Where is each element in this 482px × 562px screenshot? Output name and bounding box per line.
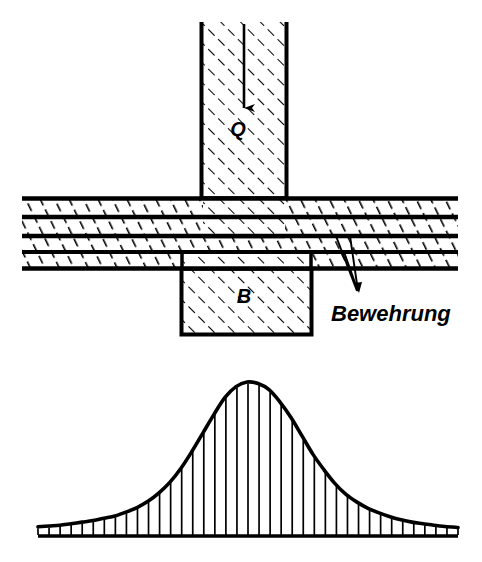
technical-figure: Q B Bewehrung	[0, 0, 482, 562]
label-q: Q	[230, 118, 246, 140]
column-slab-intersection	[203, 199, 285, 237]
support-slab-intersection	[182, 252, 311, 269]
column-through-band-1	[203, 200, 285, 216]
label-bewehrung: Bewehrung	[331, 301, 451, 326]
label-b: B	[237, 285, 251, 307]
support-through-band-4	[183, 254, 310, 268]
slab-band-3	[22, 238, 458, 250]
figure-canvas: Q B Bewehrung	[0, 0, 482, 562]
column-through-band-2	[203, 219, 285, 235]
